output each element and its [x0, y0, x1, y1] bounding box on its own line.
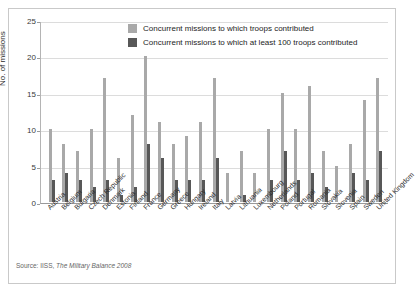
legend-label: Concurrent missions to which at least 10… — [143, 38, 357, 47]
x-axis-label-cell: Ireland — [194, 204, 208, 262]
y-axis-title: No. of missions — [0, 31, 7, 86]
bar-group[interactable] — [45, 22, 59, 202]
x-axis-label-cell: Austria — [43, 204, 57, 262]
bar-group[interactable] — [181, 22, 195, 202]
legend-item[interactable]: Concurrent missions to which troops cont… — [128, 24, 357, 33]
source-prefix: Source: IISS, — [16, 262, 56, 269]
bar-series-container — [42, 22, 388, 202]
y-axis-tick-label: 5 — [12, 164, 36, 172]
x-axis-label-cell: United Kingdom — [372, 204, 386, 262]
bar-group[interactable] — [154, 22, 168, 202]
bar-group[interactable] — [100, 22, 114, 202]
y-axis-tick-label: 25 — [12, 18, 36, 26]
bar-group[interactable] — [318, 22, 332, 202]
y-axis-tick-label: 10 — [12, 127, 36, 135]
y-axis-tick-label: 0 — [12, 200, 36, 208]
x-axis-label-cell: Spain — [345, 204, 359, 262]
x-axis-label-cell: Latvia — [221, 204, 235, 262]
x-axis-label-cell: Lithuania — [235, 204, 249, 262]
x-axis-label-cell: Italy — [208, 204, 222, 262]
bar-group[interactable] — [359, 22, 373, 202]
x-axis-label-cell: Belgium — [57, 204, 71, 262]
bar-group[interactable] — [304, 22, 318, 202]
x-axis-label-cell: Finland — [125, 204, 139, 262]
bar-group[interactable] — [168, 22, 182, 202]
x-axis-label-cell: Portugal — [290, 204, 304, 262]
y-axis-tick-mark — [37, 131, 40, 132]
bar-group[interactable] — [277, 22, 291, 202]
x-axis-label-cell: Netherlands — [263, 204, 277, 262]
plot-inner — [40, 22, 388, 204]
y-axis-tick-mark — [37, 58, 40, 59]
y-axis-tick-mark — [37, 22, 40, 23]
bar-group[interactable] — [222, 22, 236, 202]
y-axis-tick-mark — [37, 168, 40, 169]
x-axis-label-cell: Slovakia — [317, 204, 331, 262]
x-axis-label-cell: Estonia — [112, 204, 126, 262]
bar-group[interactable] — [345, 22, 359, 202]
x-axis-label-cell: Germany — [153, 204, 167, 262]
y-axis-tick-label: 20 — [12, 54, 36, 62]
bar-group[interactable] — [372, 22, 386, 202]
legend-label: Concurrent missions to which troops cont… — [143, 24, 314, 33]
x-axis-label-cell: Slovenia — [331, 204, 345, 262]
legend-swatch-icon — [128, 24, 137, 33]
x-axis-label-cell: Greece — [166, 204, 180, 262]
x-axis-label-cell: Luxembourg — [249, 204, 263, 262]
legend-item[interactable]: Concurrent missions to which at least 10… — [128, 38, 357, 47]
x-axis-label-cell: Bulgaria — [70, 204, 84, 262]
bar-group[interactable] — [127, 22, 141, 202]
bar-troops-contributed[interactable] — [226, 173, 229, 202]
source-note: Source: IISS, The Military Balance 2008 — [16, 262, 131, 269]
x-axis-labels: AustriaBelgiumBulgariaCzech RepublicDenm… — [40, 204, 388, 262]
plot-area: 0510152025 — [40, 22, 388, 204]
bar-group[interactable] — [291, 22, 305, 202]
bar-group[interactable] — [59, 22, 73, 202]
chart-legend: Concurrent missions to which troops cont… — [128, 24, 357, 47]
x-axis-label-cell: Sweden — [359, 204, 373, 262]
x-axis-label-cell: Czech Republic — [84, 204, 98, 262]
bar-group[interactable] — [236, 22, 250, 202]
legend-swatch-icon — [128, 38, 137, 47]
x-axis-label-cell: Poland — [276, 204, 290, 262]
source-title: The Military Balance 2008 — [56, 262, 131, 269]
x-axis-label-cell: France — [139, 204, 153, 262]
bar-group[interactable] — [331, 22, 345, 202]
bar-group[interactable] — [86, 22, 100, 202]
bar-group[interactable] — [195, 22, 209, 202]
bar-group[interactable] — [263, 22, 277, 202]
bar-group[interactable] — [140, 22, 154, 202]
bar-group[interactable] — [209, 22, 223, 202]
y-axis-tick-label: 15 — [12, 91, 36, 99]
x-axis-label-cell: Romania — [304, 204, 318, 262]
x-axis-label-cell: Hungary — [180, 204, 194, 262]
bar-group[interactable] — [72, 22, 86, 202]
x-axis-label-cell: Denmark — [98, 204, 112, 262]
bar-group[interactable] — [250, 22, 264, 202]
y-axis-tick-mark — [37, 95, 40, 96]
